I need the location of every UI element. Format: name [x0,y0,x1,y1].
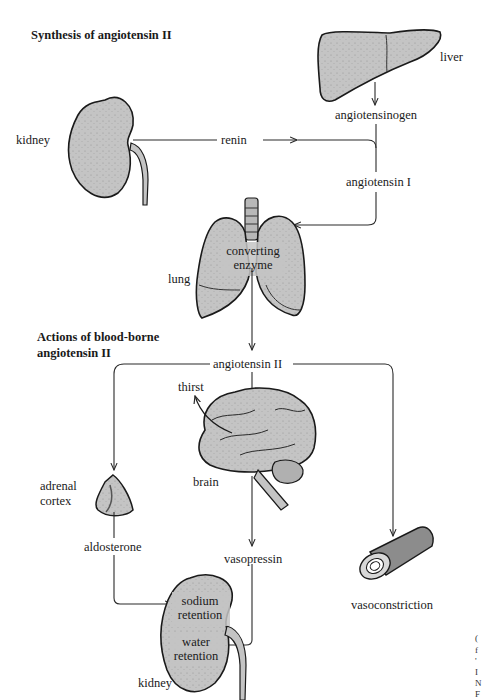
label-thirst: thirst [178,380,204,394]
brain-icon [199,388,316,510]
margin-fragment: ( [475,633,478,644]
label-liver: liver [440,50,463,64]
label-renin: renin [221,133,247,147]
label-angiotensinogen: angiotensinogen [335,108,417,122]
label-converting-enzyme-line1: converting [224,244,282,258]
margin-fragment: F [475,689,480,700]
blood-vessel-icon [355,527,433,584]
label-sodium: sodium [172,594,228,608]
margin-fragment: I [475,667,478,678]
margin-fragment: N [475,678,482,689]
label-sodium-retention: retention [172,608,228,622]
label-cortex: cortex [40,494,71,508]
margin-fragment: ' [475,656,477,667]
label-converting-enzyme-line2: enzyme [224,258,282,272]
label-kidney-bottom: kidney [138,676,172,690]
label-angiotensin-II: angiotensin II [213,357,282,371]
label-water: water [168,635,224,649]
label-angiotensin-I: angiotensin I [346,175,411,189]
label-kidney-top: kidney [16,133,50,147]
heading-actions-line1: Actions of blood-borne [37,330,159,344]
adrenal-cortex-icon [96,475,133,516]
label-aldosterone: aldosterone [84,540,142,554]
liver-icon [318,30,441,101]
label-brain: brain [193,475,219,489]
label-adrenal: adrenal [40,479,77,493]
margin-fragment: f [475,645,478,656]
label-lung: lung [168,272,190,286]
heading-synthesis: Synthesis of angiotensin II [31,28,172,42]
label-water-retention: retention [168,649,224,663]
heading-actions-line2: angiotensin II [37,346,111,360]
label-vasopressin: vasopressin [224,552,282,566]
kidney-top-icon [69,98,148,205]
arrow-angiotensin-I-to-lung [294,192,376,225]
label-vasoconstriction: vasoconstriction [351,598,433,612]
arrow-aldosterone-to-kidney [114,555,172,604]
